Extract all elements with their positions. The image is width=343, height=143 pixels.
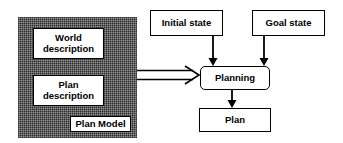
edge-initialstate-to-planning [209, 36, 218, 66]
edge-planning-to-plan [228, 90, 237, 108]
planning-diagram: World description Plan description Plan … [0, 0, 343, 143]
edge-goalstate-to-planning [260, 36, 269, 66]
diagram-connectors [0, 0, 343, 143]
edge-planmodel-to-planning [137, 66, 199, 84]
